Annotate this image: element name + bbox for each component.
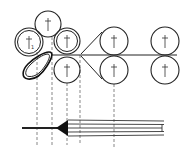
roll-right-upper (54, 28, 80, 54)
roll-end-lower (151, 56, 179, 84)
roll-mid-lower (100, 56, 128, 84)
roll-end-upper (151, 27, 179, 55)
roll-left: 1 (15, 28, 43, 56)
ply-bundle (22, 120, 164, 136)
fan-out (56, 120, 68, 136)
projection-lines (37, 37, 114, 148)
roll-left-label: 1 (31, 44, 34, 50)
roll-mid-upper (100, 27, 128, 55)
roll-right-lower (54, 57, 80, 83)
calender-diagram: 1 (0, 0, 191, 159)
